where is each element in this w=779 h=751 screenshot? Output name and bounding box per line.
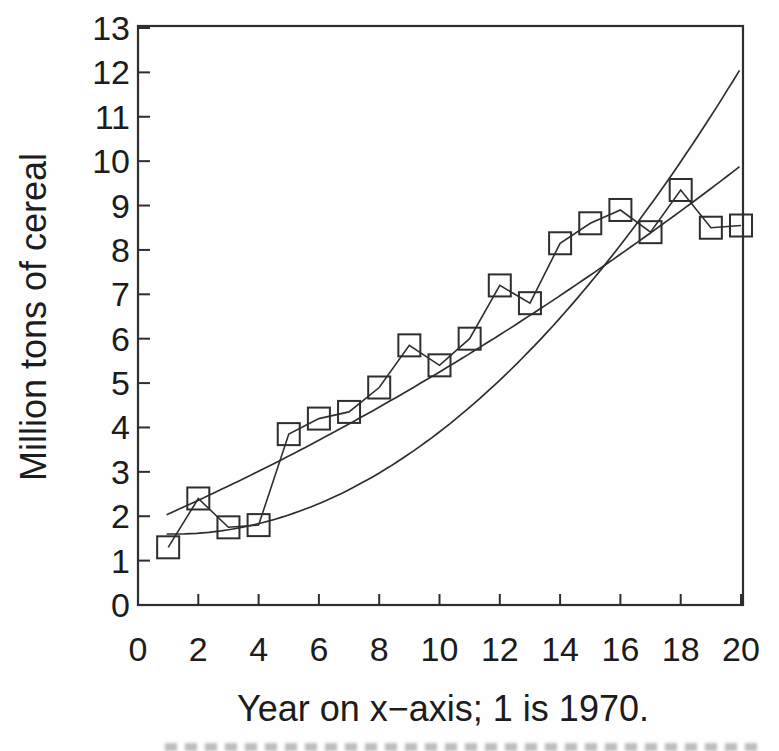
cropped-caption-ghost: [165, 743, 765, 751]
y-tick-label: 1: [111, 542, 130, 580]
x-tick-label: 6: [309, 630, 328, 668]
fitted-curve-gentle: [167, 167, 740, 515]
plot-border: [138, 26, 743, 605]
y-tick-label: 4: [111, 408, 130, 446]
data-point-marker: [157, 536, 179, 558]
y-tick-label: 6: [111, 320, 130, 358]
y-tick-label: 7: [111, 275, 130, 313]
x-axis-label: Year on x−axis; 1 is 1970.: [237, 688, 649, 729]
y-tick-label: 10: [92, 142, 130, 180]
y-tick-label: 9: [111, 187, 130, 225]
y-tick-label: 12: [92, 53, 130, 91]
y-tick-label: 5: [111, 364, 130, 402]
x-tick-label: 0: [129, 630, 148, 668]
y-tick-label: 2: [111, 497, 130, 535]
fitted-curve-steep: [167, 70, 740, 534]
x-tick-label: 16: [601, 630, 639, 668]
x-tick-label: 4: [249, 630, 268, 668]
y-tick-label: 8: [111, 231, 130, 269]
chart-canvas: 02468101214161820012345678910111213 Mill…: [0, 0, 779, 751]
x-tick-label: 12: [481, 630, 519, 668]
x-tick-label: 20: [722, 630, 760, 668]
x-tick-label: 14: [541, 630, 579, 668]
y-tick-label: 3: [111, 453, 130, 491]
y-tick-label: 13: [92, 9, 130, 47]
chart-figure: 02468101214161820012345678910111213 Mill…: [0, 0, 779, 751]
x-tick-label: 8: [370, 630, 389, 668]
x-tick-label: 2: [189, 630, 208, 668]
x-tick-label: 10: [421, 630, 459, 668]
y-axis-label: Million tons of cereal: [13, 153, 54, 481]
y-tick-label: 11: [95, 98, 130, 136]
plot-area: 02468101214161820012345678910111213: [92, 9, 760, 668]
y-tick-label: 0: [111, 586, 130, 624]
x-tick-label: 18: [662, 630, 700, 668]
